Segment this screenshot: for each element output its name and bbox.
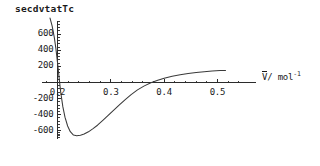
molar-volume-symbol: V bbox=[262, 72, 267, 82]
x-axis-label: V/ mol-1 bbox=[262, 70, 301, 82]
y-tick-label: 600 bbox=[38, 28, 54, 38]
y-tick-label: -400 bbox=[33, 109, 54, 119]
data-series-curve bbox=[50, 18, 225, 136]
x-tick-label: 0.3 bbox=[91, 87, 131, 97]
x-axis-unit-exponent: -1 bbox=[293, 70, 300, 78]
x-tick-label: 0.4 bbox=[144, 87, 184, 97]
x-tick-label: 0.2 bbox=[38, 87, 78, 97]
chart-figure: secdvtatTc 600400200-200-400-600 0.20.30… bbox=[0, 0, 320, 166]
plot-canvas bbox=[0, 0, 320, 166]
x-tick-label: 0.5 bbox=[197, 87, 237, 97]
data-curve-group bbox=[50, 18, 225, 136]
x-axis-unit-text: / mol bbox=[267, 72, 293, 82]
y-tick-label: -600 bbox=[33, 125, 54, 135]
y-tick-label: 400 bbox=[38, 44, 54, 54]
y-tick-label: 200 bbox=[38, 60, 54, 70]
axes-group bbox=[42, 21, 256, 139]
